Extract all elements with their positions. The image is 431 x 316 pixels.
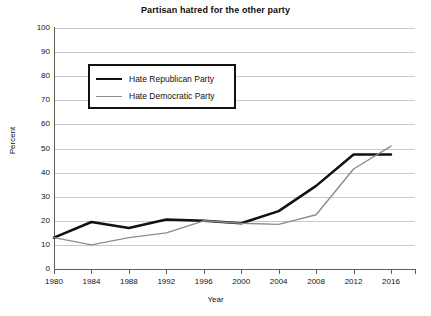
x-tick-label: 1980 (34, 277, 74, 286)
x-tick-label: 1988 (109, 277, 149, 286)
y-tick-label: 10 (4, 241, 50, 249)
y-tick-label: 70 (4, 96, 50, 104)
y-tick-label: 100 (4, 24, 50, 32)
legend-label-republican: Hate Republican Party (129, 74, 214, 84)
x-tick (204, 269, 205, 274)
gridline (54, 173, 415, 174)
x-tick (279, 269, 280, 274)
chart-title: Partisan hatred for the other party (0, 5, 431, 15)
x-tick-label: 2004 (259, 277, 299, 286)
x-tick-label: 2000 (221, 277, 261, 286)
gridline (54, 197, 415, 198)
gridline (54, 221, 415, 222)
x-tick-label: 2012 (334, 277, 374, 286)
x-tick-label: 1996 (184, 277, 224, 286)
legend-swatch-democratic-icon (96, 96, 122, 97)
x-tick-label: 2016 (371, 277, 411, 286)
x-tick (241, 269, 242, 274)
legend-item-hate-democratic-party: Hate Democratic Party (96, 89, 215, 103)
chart-legend: Hate Republican Party Hate Democratic Pa… (88, 64, 236, 109)
line-chart: Partisan hatred for the other party 0102… (0, 0, 431, 316)
x-tick (415, 269, 416, 274)
x-tick (91, 269, 92, 274)
y-tick-label: 90 (4, 48, 50, 56)
x-tick (354, 269, 355, 274)
x-tick-label: 1992 (146, 277, 186, 286)
x-axis-title: Year (0, 295, 431, 304)
x-tick (316, 269, 317, 274)
y-tick-label: 30 (4, 193, 50, 201)
legend-swatch-republican-icon (96, 78, 122, 80)
x-tick-label: 1984 (71, 277, 111, 286)
x-tick (54, 269, 55, 274)
y-axis-title: Percent (8, 111, 17, 171)
gridline (54, 28, 415, 29)
y-tick-label: 80 (4, 72, 50, 80)
x-tick (166, 269, 167, 274)
x-tick (129, 269, 130, 274)
x-axis-ticks (0, 269, 431, 277)
gridline (54, 245, 415, 246)
gridline (54, 149, 415, 150)
y-axis-line (54, 27, 55, 270)
y-tick-label: 20 (4, 217, 50, 225)
legend-item-hate-republican-party: Hate Republican Party (96, 72, 214, 86)
x-tick-label: 2008 (296, 277, 336, 286)
gridline (54, 52, 415, 53)
x-tick (391, 269, 392, 274)
gridline (54, 124, 415, 125)
legend-label-democratic: Hate Democratic Party (129, 91, 215, 101)
x-axis-tick-labels: 1980198419881992199620002004200820122016 (0, 277, 431, 289)
